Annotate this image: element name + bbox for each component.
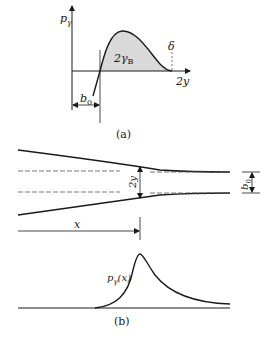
diagram-canvas: pγ 2y 2γB δ b0 (a) 2y b0 x pγ(x) (b) <box>0 0 277 340</box>
caption-b: (b) <box>114 315 130 328</box>
y-axis-label: pγ <box>60 12 72 27</box>
figure-a: pγ 2y 2γB δ b0 (a) <box>60 6 190 141</box>
gap-label: 2y <box>127 176 138 189</box>
lower-boundary <box>18 193 230 215</box>
b0-label-right: b0 <box>239 179 253 190</box>
upper-boundary <box>18 150 230 172</box>
figure-b: 2y b0 x pγ(x) (b) <box>18 150 260 328</box>
x-label: x <box>74 218 81 231</box>
delta-label: δ <box>168 40 175 53</box>
x-axis-label: 2y <box>175 75 190 88</box>
curve-label: pγ(x) <box>107 272 131 286</box>
b0-label: b0 <box>80 92 92 107</box>
caption-a: (a) <box>116 128 131 141</box>
